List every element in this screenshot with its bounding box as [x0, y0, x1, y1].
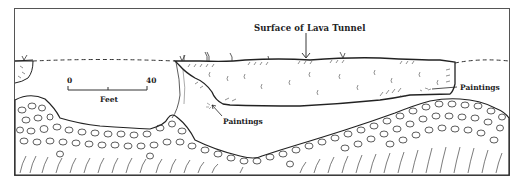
- scale-end-label: 40: [146, 76, 156, 85]
- scale-bar: [68, 86, 147, 90]
- lava-tunnel-diagram: Surface of Lava Tunnel Paintings Paintin…: [0, 0, 526, 190]
- rubble-layer: [15, 96, 509, 175]
- paintings-label-right: Paintings: [460, 83, 500, 92]
- paintings-label-lower: Paintings: [223, 117, 263, 126]
- scale-start-label: 0: [67, 76, 72, 85]
- surface-label: Surface of Lava Tunnel: [254, 23, 366, 33]
- scale-unit-label: Feet: [100, 95, 118, 104]
